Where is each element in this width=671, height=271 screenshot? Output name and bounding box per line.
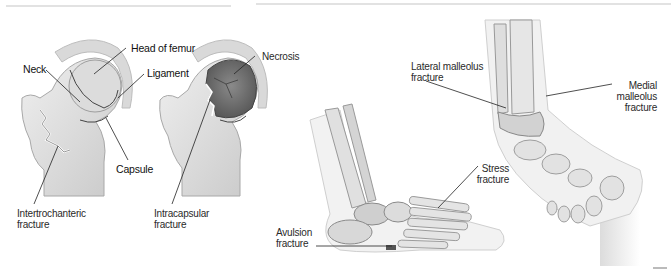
label-intracapsular-fracture: Intracapsular fracture <box>154 208 209 230</box>
page-number-fragment <box>653 267 667 269</box>
label-intertrochanteric-fracture: Intertrochanteric fracture <box>17 208 86 230</box>
illustration-canvas <box>0 0 671 271</box>
femur-illustration-intracapsular <box>160 40 268 196</box>
label-neck: Neck <box>23 64 46 75</box>
foot-illustration-anterior <box>485 20 642 266</box>
label-ligament: Ligament <box>147 68 189 79</box>
label-lateral-malleolus-fracture: Lateral malleolus fracture <box>411 61 483 83</box>
label-avulsion-fracture: Avulsion fracture <box>276 227 312 249</box>
label-necrosis: Necrosis <box>262 51 299 62</box>
label-head-of-femur: Head of femur <box>131 43 195 54</box>
label-stress-fracture: Stress fracture <box>474 163 509 185</box>
label-capsule: Capsule <box>116 164 153 175</box>
label-medial-malleolus-fracture: Medial malleolus fracture <box>614 80 657 113</box>
